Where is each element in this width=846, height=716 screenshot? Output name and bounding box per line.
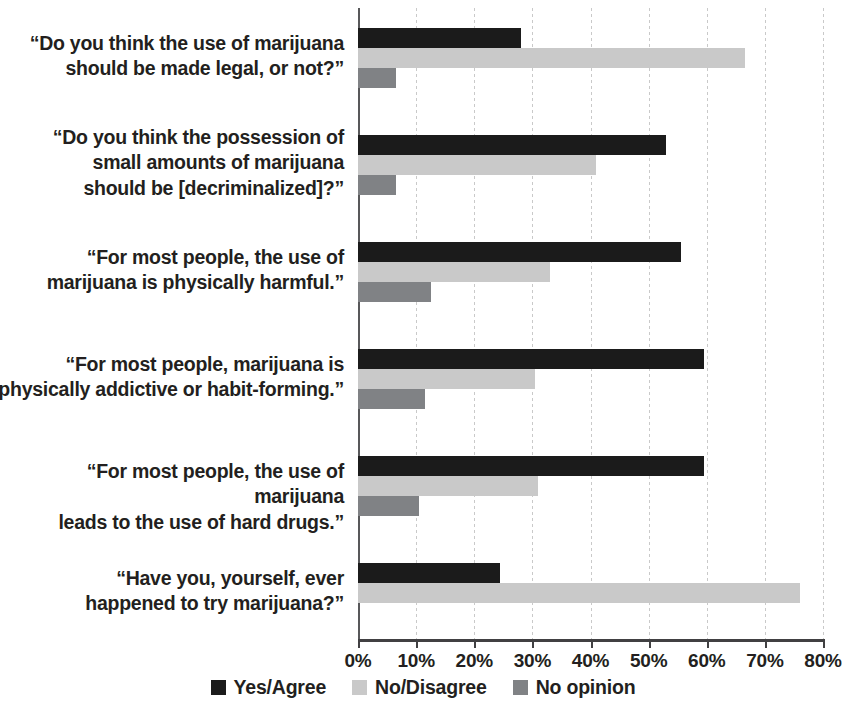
category-label: “Do you think the possession ofsmall amo…	[0, 125, 344, 202]
category-label: “For most people, the use of marijuanale…	[0, 459, 344, 536]
category-label-line: small amounts of marijuana	[0, 150, 344, 176]
category-label-line: “Do you think the possession of	[0, 125, 344, 151]
bar-no-opinion	[358, 496, 419, 516]
legend-item-no-opinion[interactable]: No opinion	[513, 676, 636, 699]
bar-no-opinion	[358, 389, 425, 409]
bar-no-disagree	[358, 369, 535, 389]
bar-yes-agree	[358, 135, 666, 155]
category-label-line: marijuana is physically harmful.”	[0, 270, 344, 296]
bar-yes-agree	[358, 349, 704, 369]
bar-no-disagree	[358, 155, 596, 175]
bar-yes-agree	[358, 563, 500, 583]
x-tick-label: 0%	[328, 650, 388, 672]
x-tick-label: 40%	[561, 650, 621, 672]
bar-no-disagree	[358, 48, 745, 68]
category-label: “Do you think the use of marijuanashould…	[0, 31, 344, 82]
category-label: “For most people, the use ofmarijuana is…	[0, 245, 344, 296]
category-label-line: should be made legal, or not?”	[0, 56, 344, 82]
x-tick-label: 60%	[677, 650, 737, 672]
chart-legend: Yes/AgreeNo/DisagreeNo opinion	[0, 676, 846, 699]
bar-series-layer	[358, 8, 823, 640]
bar-chart: 0%10%20%30%40%50%60%70%80% “Do you think…	[0, 0, 846, 716]
category-label-line: leads to the use of hard drugs.”	[0, 510, 344, 536]
bar-no-opinion	[358, 68, 396, 88]
legend-item-no-disagree[interactable]: No/Disagree	[352, 676, 487, 699]
legend-swatch-icon	[513, 680, 528, 695]
category-label-line: “For most people, the use of	[0, 245, 344, 271]
bar-no-disagree	[358, 262, 550, 282]
category-label-line: “Do you think the use of marijuana	[0, 31, 344, 57]
category-label: “For most people, marijuana isphysically…	[0, 352, 344, 403]
legend-label: No/Disagree	[375, 676, 487, 699]
bar-yes-agree	[358, 456, 704, 476]
category-label-line: physically addictive or habit-forming.”	[0, 377, 344, 403]
legend-label: No opinion	[536, 676, 636, 699]
bar-no-opinion	[358, 175, 396, 195]
legend-swatch-icon	[211, 680, 226, 695]
category-label-line: “For most people, marijuana is	[0, 352, 344, 378]
category-label-line: should be [decriminalized]?”	[0, 176, 344, 202]
bar-no-opinion	[358, 282, 431, 302]
x-tick-label: 10%	[386, 650, 446, 672]
gridline	[823, 8, 824, 640]
legend-label: Yes/Agree	[234, 676, 327, 699]
category-label-line: “For most people, the use of marijuana	[0, 459, 344, 510]
bar-no-disagree	[358, 583, 800, 603]
x-tick-label: 30%	[502, 650, 562, 672]
x-tick-label: 80%	[793, 650, 846, 672]
legend-swatch-icon	[352, 680, 367, 695]
x-tick-label: 20%	[444, 650, 504, 672]
bar-yes-agree	[358, 28, 521, 48]
category-label: “Have you, yourself, everhappened to try…	[0, 566, 344, 617]
bar-yes-agree	[358, 242, 681, 262]
x-tick-label: 70%	[735, 650, 795, 672]
bar-no-disagree	[358, 476, 538, 496]
category-label-line: happened to try marijuana?”	[0, 591, 344, 617]
category-label-line: “Have you, yourself, ever	[0, 566, 344, 592]
x-tick-label: 50%	[619, 650, 679, 672]
legend-item-yes-agree[interactable]: Yes/Agree	[211, 676, 327, 699]
